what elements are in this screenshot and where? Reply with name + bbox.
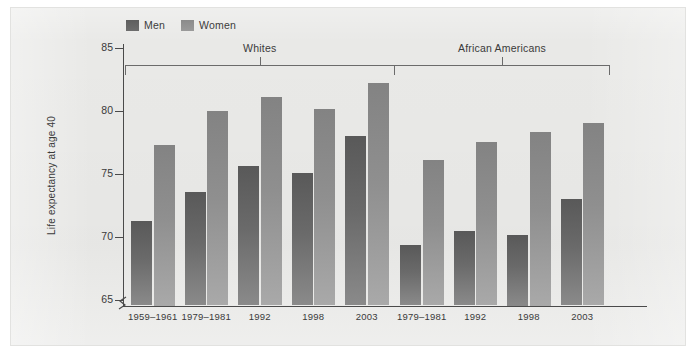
y-axis-title: Life expectancy at age 40 <box>46 86 57 266</box>
x-tick-label-african-americans-19791981: 1979–1981 <box>397 311 446 322</box>
chart-plot-area: Men Women 85 80 75 70 65 <box>0 0 696 358</box>
x-axis-line <box>123 306 647 307</box>
group-label-whites: Whites <box>243 42 276 54</box>
y-tick-label-85: 85 <box>83 41 113 53</box>
y-tick-label-65: 65 <box>83 293 113 305</box>
x-tick-label-whites-19591961: 1959–1961 <box>128 311 177 322</box>
group-bracket-whites <box>125 65 395 75</box>
bar-african-americans-19791981-women <box>423 160 444 305</box>
group-bracket-african-americans <box>394 65 610 75</box>
bar-whites-19591961-women <box>154 145 175 306</box>
y-tick-mark-70 <box>115 237 123 238</box>
group-bracket-tick-0 <box>260 57 261 66</box>
bar-african-americans-2003-women <box>583 123 604 306</box>
group-bracket-tick-1 <box>502 57 503 66</box>
figure-root: Men Women 85 80 75 70 65 <box>0 0 696 358</box>
bar-whites-1992-women <box>261 97 282 306</box>
y-tick-label-80: 80 <box>83 104 113 116</box>
y-tick-label-75: 75 <box>83 167 113 179</box>
x-tick-label-african-americans-1998: 1998 <box>518 311 540 322</box>
x-tick-label-whites-1992: 1992 <box>249 311 271 322</box>
axis-break-icon <box>118 296 129 310</box>
bar-whites-1998-women <box>314 109 335 306</box>
legend-item-men: Men <box>126 19 165 31</box>
chart-legend: Men Women <box>126 19 236 31</box>
bar-whites-19591961-men <box>131 221 152 306</box>
y-axis-line <box>123 44 124 306</box>
legend-swatch-men-icon <box>126 20 139 31</box>
y-tick-mark-85 <box>115 48 123 49</box>
legend-label-men: Men <box>144 19 165 31</box>
legend-swatch-women-icon <box>181 20 194 31</box>
x-tick-label-african-americans-1992: 1992 <box>464 311 486 322</box>
bar-african-americans-1992-women <box>476 142 497 306</box>
group-label-african-americans: African Americans <box>458 42 546 54</box>
legend-item-women: Women <box>181 19 236 31</box>
x-tick-label-whites-19791981: 1979–1981 <box>182 311 231 322</box>
y-tick-mark-75 <box>115 174 123 175</box>
bar-african-americans-1998-women <box>530 132 551 306</box>
bar-african-americans-1998-men <box>507 235 528 306</box>
bar-whites-2003-men <box>345 136 366 306</box>
x-tick-label-whites-2003: 2003 <box>356 311 378 322</box>
bar-whites-19791981-men <box>185 192 206 305</box>
bar-whites-19791981-women <box>207 111 228 305</box>
bar-whites-1998-men <box>292 173 313 306</box>
bar-whites-2003-women <box>368 83 389 306</box>
bar-african-americans-1992-men <box>454 231 475 306</box>
x-tick-label-whites-1998: 1998 <box>302 311 324 322</box>
y-tick-mark-80 <box>115 111 123 112</box>
bar-african-americans-2003-men <box>561 199 582 306</box>
legend-label-women: Women <box>199 19 236 31</box>
y-tick-label-70: 70 <box>83 230 113 242</box>
bar-african-americans-19791981-men <box>400 245 421 306</box>
bar-whites-1992-men <box>238 166 259 305</box>
x-tick-label-african-americans-2003: 2003 <box>571 311 593 322</box>
